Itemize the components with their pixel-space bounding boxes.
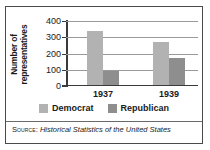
gridline — [66, 21, 198, 22]
gridline — [66, 37, 198, 38]
legend-label: Democrat — [52, 103, 94, 113]
bar-republican-1937 — [103, 71, 119, 85]
legend-swatch-democrat — [39, 104, 48, 113]
bar-democrat-1939 — [153, 42, 169, 85]
y-axis-label: Number of representatives — [10, 12, 29, 98]
y-axis-tick — [62, 21, 66, 22]
source-title: Historical Statistics of the United Stat… — [40, 125, 171, 134]
y-axis-tick-label: 400 — [46, 16, 61, 26]
y-axis-tick-label: 200 — [46, 49, 61, 59]
bar-republican-1939 — [169, 58, 185, 85]
y-axis-tick — [62, 70, 66, 71]
chart-legend: DemocratRepublican — [6, 103, 202, 113]
legend-swatch-republican — [108, 104, 117, 113]
y-axis-tick-label: 100 — [46, 65, 61, 75]
source-divider — [6, 121, 202, 122]
x-axis-tick-label: 1939 — [159, 89, 179, 99]
y-axis-tick — [62, 54, 66, 55]
legend-item-republican: Republican — [108, 103, 170, 113]
chart-plot-area: Number of representatives 01002003004001… — [6, 7, 202, 120]
y-axis-tick — [62, 37, 66, 38]
bars-and-axes: 010020030040019371939 — [66, 21, 198, 86]
x-axis-tick-label: 1937 — [93, 89, 113, 99]
y-axis-tick-label: 0 — [56, 81, 61, 91]
legend-label: Republican — [121, 103, 170, 113]
bar-democrat-1937 — [87, 31, 103, 85]
source-caption: Source: Historical Statistics of the Uni… — [12, 125, 198, 134]
y-axis-tick-label: 300 — [46, 32, 61, 42]
y-axis-tick — [62, 86, 66, 87]
legend-item-democrat: Democrat — [39, 103, 94, 113]
chart-figure: Number of representatives 01002003004001… — [5, 6, 203, 144]
source-prefix: Source: — [12, 125, 38, 134]
gridline — [66, 54, 198, 55]
